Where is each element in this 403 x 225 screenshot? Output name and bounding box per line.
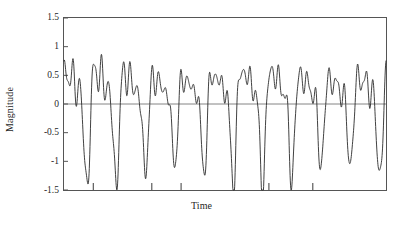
y-tick-label-neg-1: -1: [51, 157, 59, 167]
y-axis-title: Magnitude: [4, 70, 15, 150]
x-axis-title: Time: [0, 200, 403, 211]
chart-figure: 1.5 1 0.5 0 -0.5 -1 -1.5 Magnitude Time: [0, 0, 403, 225]
y-tick-label-0-5: 0.5: [47, 71, 59, 81]
y-tick-label-neg-0-5: -0.5: [44, 128, 59, 138]
y-tick-label-0: 0: [54, 100, 59, 110]
plot-canvas: [0, 0, 403, 225]
y-tick-label-neg-1-5: -1.5: [44, 186, 59, 196]
y-tick-label-1-5: 1.5: [47, 13, 59, 23]
y-tick-label-1: 1: [54, 42, 59, 52]
